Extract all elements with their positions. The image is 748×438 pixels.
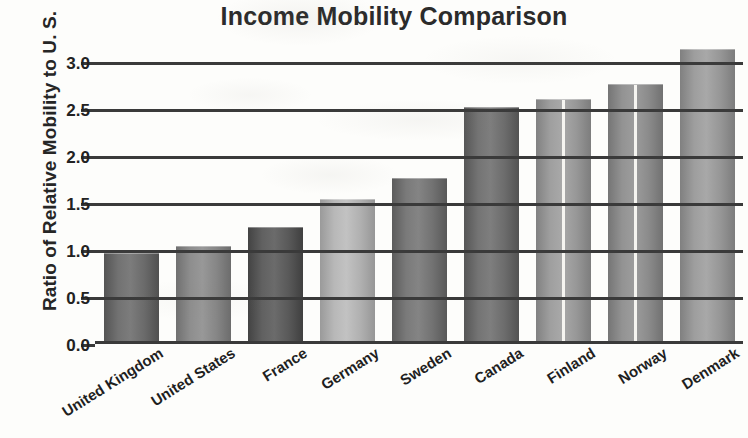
gridline (95, 297, 743, 300)
bar (248, 227, 303, 341)
bar (320, 199, 375, 341)
gridline (95, 203, 743, 206)
bar (608, 84, 663, 341)
gridline (95, 250, 743, 253)
bar (536, 99, 591, 341)
x-axis-category-label: Finland (544, 344, 598, 387)
bar-series (95, 40, 743, 341)
x-axis-category-label: France (259, 344, 310, 384)
chart-title: Income Mobility Comparison (0, 2, 748, 31)
y-axis-title: Ratio of Relative Mobility to U. S. (39, 0, 61, 346)
x-axis-category-labels: United KingdomUnited StatesFranceGermany… (95, 344, 743, 438)
x-axis-category-label: Canada (471, 344, 526, 387)
x-axis-category-label: Denmark (679, 344, 742, 392)
scan-seam (634, 85, 637, 341)
plot-area: 0.00.51.01.52.02.53.0 (95, 40, 743, 345)
bar (464, 107, 519, 341)
x-axis-category-label: Sweden (397, 344, 454, 388)
gridline (95, 156, 743, 159)
gridline (95, 62, 743, 65)
x-axis-category-label: Germany (318, 344, 382, 393)
bar (176, 246, 231, 341)
gridline (95, 109, 743, 112)
scan-seam (562, 100, 565, 341)
x-axis-category-label: Norway (615, 344, 670, 387)
